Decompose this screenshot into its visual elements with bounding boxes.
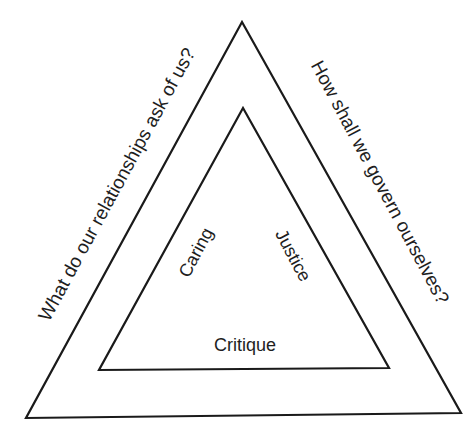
inner-bottom-label-critique: Critique	[214, 335, 276, 355]
ethics-triangle-diagram: What do our relationships ask of us? How…	[0, 0, 474, 430]
inner-right-label-justice: Justice	[271, 226, 315, 285]
outer-left-question: What do our relationships ask of us?	[34, 44, 199, 324]
inner-left-label-caring: Caring	[175, 224, 218, 280]
